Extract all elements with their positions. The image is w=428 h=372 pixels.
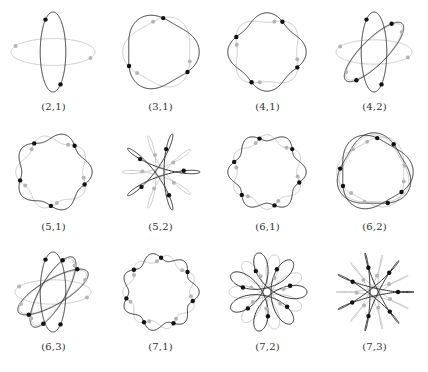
panel-label: (6,1): [214, 221, 321, 232]
rosette-curve-diagram: [0, 240, 107, 340]
panel-6-2: (6,2): [321, 120, 428, 240]
panel-label: (4,2): [321, 101, 428, 112]
rosette-curve-diagram: [214, 240, 321, 340]
rosette-curve-diagram: [321, 240, 428, 340]
panel-6-1: (6,1): [214, 120, 321, 240]
panel-2-1: (2,1): [0, 0, 107, 120]
rosette-curve-diagram: [107, 120, 214, 220]
panel-6-3: (6,3): [0, 240, 107, 360]
rosette-curve-diagram: [107, 0, 214, 100]
rosette-curve-diagram: [107, 240, 214, 340]
panel-label: (3,1): [107, 101, 214, 112]
panel-label: (2,1): [0, 101, 107, 112]
rosette-curve-diagram: [214, 120, 321, 220]
panel-label: (5,2): [107, 221, 214, 232]
panel-4-2: (4,2): [321, 0, 428, 120]
rosette-curve-diagram: [0, 0, 107, 100]
panel-4-1: (4,1): [214, 0, 321, 120]
panel-label: (4,1): [214, 101, 321, 112]
panel-7-3: (7,3): [321, 240, 428, 360]
panel-7-1: (7,1): [107, 240, 214, 360]
rosette-curve-diagram: [214, 0, 321, 100]
panel-5-1: (5,1): [0, 120, 107, 240]
panel-3-1: (3,1): [107, 0, 214, 120]
panel-label: (6,2): [321, 221, 428, 232]
panel-label: (7,2): [214, 341, 321, 352]
panel-7-2: (7,2): [214, 240, 321, 360]
faint-caption: [40, 362, 380, 368]
panel-label: (6,3): [0, 341, 107, 352]
panel-5-2: (5,2): [107, 120, 214, 240]
figure-grid: (2,1)(3,1)(4,1)(4,2)(5,1)(5,2)(6,1)(6,2)…: [0, 0, 428, 372]
rosette-curve-diagram: [321, 120, 428, 220]
panel-label: (5,1): [0, 221, 107, 232]
panel-label: (7,3): [321, 341, 428, 352]
panel-label: (7,1): [107, 341, 214, 352]
rosette-curve-diagram: [321, 0, 428, 100]
rosette-curve-diagram: [0, 120, 107, 220]
